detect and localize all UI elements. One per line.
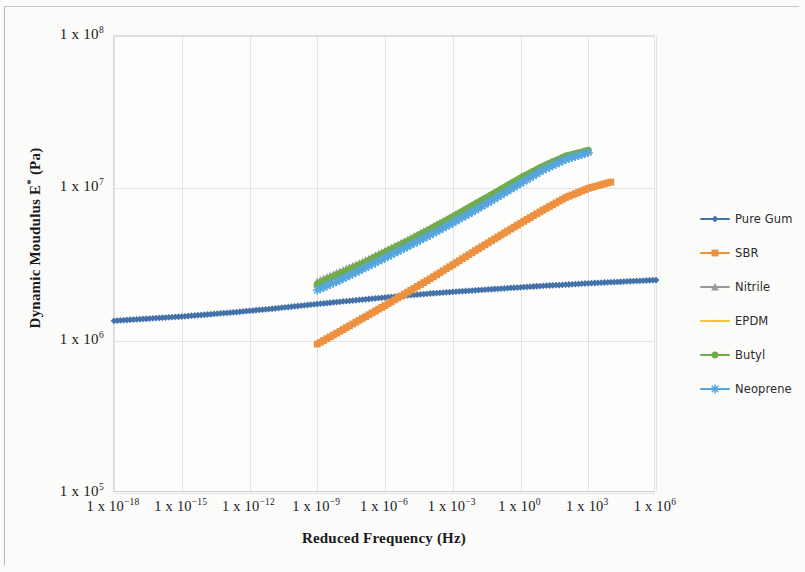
legend-item-epdm: EPDM — [700, 310, 800, 332]
legend-marker-circle-icon — [700, 348, 730, 362]
legend-item-butyl: Butyl — [700, 344, 800, 366]
legend-item-pure-gum: Pure Gum — [700, 208, 800, 230]
legend-label: Pure Gum — [735, 212, 792, 226]
legend-label: EPDM — [735, 314, 768, 328]
legend-marker-dash-icon — [700, 314, 730, 328]
gridline-vertical — [656, 36, 657, 491]
plot-area — [113, 35, 655, 492]
data-series-layer — [114, 36, 656, 493]
chart-figure: 1 x 1051 x 1061 x 1071 x 108 1 x 10−181 … — [0, 0, 805, 572]
legend-item-nitrile: Nitrile — [700, 276, 800, 298]
x-axis-tick-label: 1 x 106 — [615, 497, 695, 515]
legend-marker-square-icon — [700, 246, 730, 260]
legend-label: Butyl — [735, 348, 765, 362]
chart-legend: Pure GumSBRNitrileEPDMButylNeoprene — [700, 208, 800, 412]
legend-label: SBR — [735, 246, 758, 260]
gridline-horizontal — [114, 493, 654, 494]
legend-marker-triangle-icon — [700, 280, 730, 294]
y-axis-title: Dynamic Moudulus E* (Pa) — [24, 118, 44, 358]
legend-item-sbr: SBR — [700, 242, 800, 264]
legend-item-neoprene: Neoprene — [700, 378, 800, 400]
legend-label: Neoprene — [735, 382, 792, 396]
series-neoprene — [313, 148, 593, 295]
legend-label: Nitrile — [735, 280, 770, 294]
legend-marker-star-icon — [700, 382, 730, 396]
y-axis-tick-label: 1 x 108 — [8, 25, 104, 43]
y-axis-tick-label: 1 x 106 — [8, 330, 104, 348]
legend-marker-diamond-icon — [700, 212, 730, 226]
x-axis-title: Reduced Frequency (Hz) — [113, 530, 655, 547]
y-axis-tick-label: 1 x 107 — [8, 177, 104, 195]
